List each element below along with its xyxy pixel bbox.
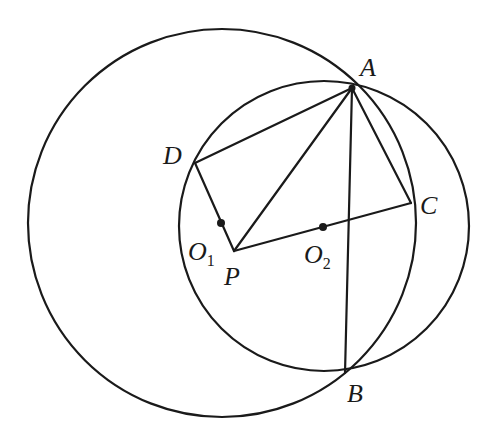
label-a: A xyxy=(358,53,376,82)
label-b: B xyxy=(347,379,363,408)
segment-ac xyxy=(352,88,411,203)
point-o1-marker xyxy=(217,219,225,227)
segment-ap xyxy=(234,88,352,251)
label-p: P xyxy=(223,262,240,291)
label-c: C xyxy=(420,191,438,220)
segment-ab xyxy=(345,88,352,373)
point-a-marker xyxy=(349,85,356,92)
label-o1: O1 xyxy=(188,237,215,269)
label-d: D xyxy=(162,141,182,170)
point-o2-marker xyxy=(319,223,327,231)
geometry-diagram: A B C D P O1 O2 xyxy=(0,0,489,439)
label-o2: O2 xyxy=(304,240,331,272)
